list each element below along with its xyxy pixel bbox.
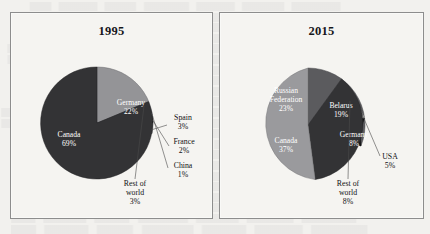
slice-russian-federation-2015 [266, 68, 315, 180]
label-rest-1995-value: 3% [130, 197, 141, 206]
label-belarus-2015-name: Belarus [329, 101, 352, 110]
label-spain-1995-value: 3% [178, 122, 189, 131]
figure-sheet: 1995 Germany 22% Canada 69% [0, 0, 430, 234]
label-usa-2015-name: USA [382, 152, 398, 161]
label-rest-2015-line1: Rest of [337, 179, 360, 188]
label-france-1995-name: France [173, 137, 195, 146]
label-germany-1995-name: Germany [117, 98, 145, 107]
label-canada-1995-value: 69% [62, 139, 77, 148]
label-usa-2015-value: 5% [385, 161, 396, 170]
label-belarus-2015-value: 19% [334, 110, 349, 119]
chart-panel-1995: 1995 Germany 22% Canada 69% [10, 12, 213, 219]
label-russia-2015-line2: Federation [270, 95, 303, 104]
label-germany-1995-value: 22% [124, 107, 139, 116]
label-russia-2015-line1: Russian [274, 86, 298, 95]
label-germany-2015-name: Germany [340, 130, 368, 139]
label-china-1995-value: 1% [178, 170, 189, 179]
label-rest-1995-line2: world [126, 188, 144, 197]
label-rest-1995-line1: Rest of [124, 179, 147, 188]
label-spain-1995-name: Spain [174, 113, 192, 122]
label-rest-2015-line2: world [339, 188, 357, 197]
label-germany-2015-value: 8% [349, 139, 360, 148]
label-canada-2015-name: Canada [275, 136, 298, 145]
label-canada-2015-value: 37% [279, 145, 294, 154]
label-china-1995-name: China [174, 161, 193, 170]
label-rest-2015-value: 8% [343, 197, 354, 206]
leader-spain-1995 [151, 125, 167, 130]
pie-chart-1995: Germany 22% Canada 69% Spain 3% France 2… [11, 13, 212, 218]
chart-panel-2015: 2015 Russian Federation 23% [219, 12, 424, 219]
label-russia-2015-value: 23% [279, 104, 294, 113]
label-canada-1995-name: Canada [58, 130, 81, 139]
label-france-1995-value: 2% [179, 146, 190, 155]
pie-chart-2015: Russian Federation 23% Belarus 19% Germa… [220, 13, 423, 218]
